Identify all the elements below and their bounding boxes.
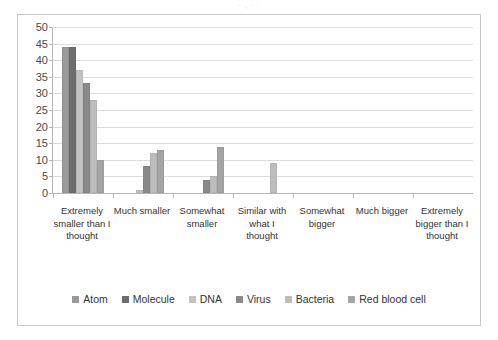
y-axis-tick-label: 25 (18, 105, 48, 115)
bar[interactable] (62, 47, 69, 193)
bar[interactable] (83, 83, 90, 193)
legend-label: Molecule (133, 294, 175, 305)
bar[interactable] (270, 163, 277, 193)
legend-label: Virus (247, 294, 271, 305)
x-axis-tickmark (173, 194, 174, 198)
x-axis-tickmark (293, 194, 294, 198)
legend-swatch-icon (122, 296, 129, 303)
y-axis-tick-label: 10 (18, 155, 48, 165)
bar[interactable] (210, 176, 217, 193)
bar[interactable] (217, 147, 224, 193)
x-axis-tickmark (233, 194, 234, 198)
bar-group (293, 27, 353, 193)
plot-area-wrapper: 50454035302520151050 (18, 15, 480, 201)
bar[interactable] (143, 166, 150, 193)
bar-group (233, 27, 293, 193)
bar-group (53, 27, 113, 193)
legend-entry[interactable]: Bacteria (285, 294, 335, 305)
legend-entry[interactable]: Molecule (122, 294, 175, 305)
chart-legend: AtomMoleculeDNAVirusBacteriaRed blood ce… (18, 289, 480, 309)
bar-group (113, 27, 173, 193)
y-axis-tick-label: 15 (18, 138, 48, 148)
x-axis-category-labels: Extremely smaller than I thoughtMuch sma… (52, 205, 472, 283)
bar[interactable] (90, 100, 97, 193)
y-axis-tick-label: 40 (18, 55, 48, 65)
y-axis-tick-labels: 50454035302520151050 (18, 27, 48, 193)
x-axis-category-label: Similar with what I thought (232, 205, 292, 283)
legend-label: DNA (200, 294, 222, 305)
x-axis-tickmark (53, 194, 54, 198)
plot-area (52, 27, 473, 194)
legend-swatch-icon (285, 296, 292, 303)
legend-swatch-icon (189, 296, 196, 303)
bar-groups (53, 27, 473, 193)
legend-entry[interactable]: Atom (72, 294, 108, 305)
legend-entry[interactable]: DNA (189, 294, 222, 305)
x-axis-tickmark (353, 194, 354, 198)
x-axis-tickmark (113, 194, 114, 198)
y-axis-tick-label: 30 (18, 88, 48, 98)
x-axis-tickmark (413, 194, 414, 198)
bar-group (413, 27, 473, 193)
legend-label: Red blood cell (359, 294, 426, 305)
x-axis-category-label: Extremely bigger than I thought (412, 205, 472, 283)
y-axis-tick-label: 45 (18, 39, 48, 49)
bar[interactable] (97, 160, 104, 193)
bar[interactable] (136, 190, 143, 193)
bar[interactable] (76, 70, 83, 193)
y-axis-tick-label: 50 (18, 22, 48, 32)
x-axis-category-label: Much smaller (112, 205, 172, 283)
chart-frame: 50454035302520151050 Extremely smaller t… (17, 14, 481, 326)
legend-swatch-icon (348, 296, 355, 303)
x-axis-category-label: Much bigger (352, 205, 412, 283)
legend-swatch-icon (236, 296, 243, 303)
bar[interactable] (69, 47, 76, 193)
y-axis-tick-label: 20 (18, 122, 48, 132)
legend-entry[interactable]: Red blood cell (348, 294, 426, 305)
y-axis-tick-label: 0 (18, 188, 48, 198)
y-axis-tick-label: 35 (18, 72, 48, 82)
legend-label: Bacteria (296, 294, 335, 305)
bar[interactable] (157, 150, 164, 193)
bar[interactable] (203, 180, 210, 193)
x-axis-category-label: Somewhat smaller (172, 205, 232, 283)
bar-group (353, 27, 413, 193)
page-top-bleed-text: · , · · (0, 0, 498, 13)
bar-group (173, 27, 233, 193)
legend-swatch-icon (72, 296, 79, 303)
legend-entry[interactable]: Virus (236, 294, 271, 305)
legend-label: Atom (83, 294, 108, 305)
y-axis-tick-label: 5 (18, 171, 48, 181)
bar[interactable] (150, 153, 157, 193)
x-axis-category-label: Extremely smaller than I thought (52, 205, 112, 283)
x-axis-category-label: Somewhat bigger (292, 205, 352, 283)
